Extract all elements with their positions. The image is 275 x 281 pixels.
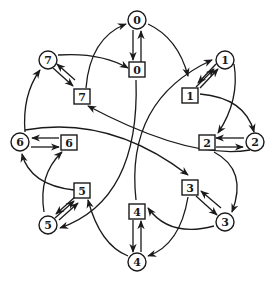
square-node-1[interactable]: 1 [182,88,198,103]
svg-text:7: 7 [44,54,52,67]
svg-text:0: 0 [133,64,141,77]
svg-text:3: 3 [221,216,229,229]
square-node-6[interactable]: 6 [61,135,77,150]
circle-node-4[interactable]: 4 [128,253,146,271]
circle-node-6[interactable]: 6 [11,133,29,151]
nodes-layer: 0 1 2 3 4 5 6 7 0 1 2 3 4 5 6 7 [11,11,264,271]
svg-text:4: 4 [133,206,141,219]
edge-s7-c7 [57,64,75,80]
circle-node-5[interactable]: 5 [39,216,57,234]
svg-text:5: 5 [78,185,86,198]
svg-text:6: 6 [16,136,24,149]
circle-node-2[interactable]: 2 [246,133,264,151]
svg-text:7: 7 [78,91,86,104]
svg-text:1: 1 [186,90,194,103]
svg-text:6: 6 [65,137,73,150]
edge-c7-s0 [58,55,128,68]
edge-c6-s7 [25,70,40,132]
edge-s1-c1 [196,69,214,87]
edge-s2-c3 [214,152,237,212]
svg-text:3: 3 [186,182,194,195]
edge-c7-s7 [53,68,73,86]
edge-s0-c5 [60,80,136,228]
edge-s3-c4 [148,197,188,256]
svg-text:2: 2 [251,136,259,149]
svg-text:0: 0 [133,14,141,27]
square-node-5[interactable]: 5 [74,183,90,198]
square-node-4[interactable]: 4 [129,204,145,219]
square-node-7[interactable]: 7 [74,89,90,104]
svg-text:1: 1 [221,54,229,67]
square-node-0[interactable]: 0 [129,62,145,77]
circle-node-1[interactable]: 1 [216,51,234,69]
state-diagram: 0 1 2 3 4 5 6 7 0 1 2 3 4 5 6 7 [0,0,275,281]
square-node-2[interactable]: 2 [199,135,215,150]
edge-s3-c3 [196,196,217,215]
edge-c3-s3 [201,191,221,208]
circle-node-3[interactable]: 3 [216,213,234,231]
circle-node-7[interactable]: 7 [39,51,57,69]
edge-s5-c5 [56,197,75,214]
svg-text:5: 5 [44,219,52,232]
edge-c0-s1 [148,24,188,76]
edge-c2-s7 [88,106,250,152]
square-node-3[interactable]: 3 [182,180,198,195]
svg-text:4: 4 [133,256,141,269]
svg-text:2: 2 [203,137,211,150]
edge-c3-s4 [148,208,214,229]
edge-s1-c2 [200,94,254,132]
circle-node-0[interactable]: 0 [128,11,146,29]
